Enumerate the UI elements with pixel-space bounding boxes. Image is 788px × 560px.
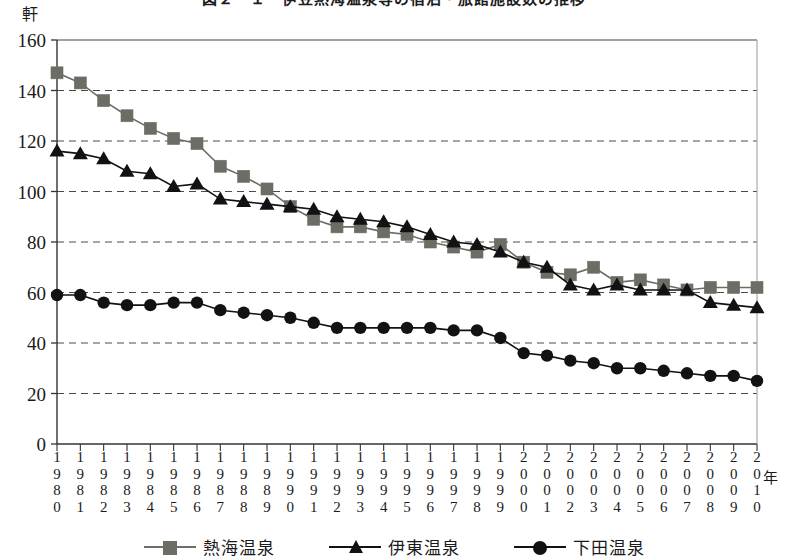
x-axis-tick-digit: 9 <box>93 466 115 483</box>
x-axis-tick-digit: 0 <box>536 466 558 483</box>
x-axis-tick-digit: 0 <box>676 482 698 499</box>
x-axis-tick-digit: 1 <box>746 482 768 499</box>
x-axis-tick-label: 2003 <box>583 449 605 515</box>
x-axis-tick-digit: 2 <box>513 449 535 466</box>
square-marker-icon <box>98 95 110 107</box>
x-axis-tick-digit: 2 <box>699 449 721 466</box>
x-axis-tick-digit: 1 <box>233 449 255 466</box>
x-axis-tick-digit: 8 <box>163 482 185 499</box>
square-marker-icon <box>238 170 250 182</box>
y-axis-tick-label: 20 <box>27 384 46 405</box>
x-axis-tick-digit: 0 <box>653 466 675 483</box>
legend-key <box>514 538 566 556</box>
x-axis-tick-digit: 6 <box>186 499 208 516</box>
x-axis-tick-label: 2006 <box>653 449 675 515</box>
x-axis-tick-digit: 4 <box>139 499 161 516</box>
x-axis-tick-label: 1991 <box>303 449 325 515</box>
circle-marker-icon <box>121 299 133 311</box>
x-axis-tick-digit: 9 <box>303 466 325 483</box>
circle-marker-icon <box>377 322 389 334</box>
x-axis-tick-digit: 9 <box>443 466 465 483</box>
x-axis-tick-digit: 1 <box>186 449 208 466</box>
legend-item-3[interactable]: 下田温泉 <box>514 534 645 559</box>
x-axis-tick-label: 1992 <box>326 449 348 515</box>
x-axis-tick-digit: 9 <box>46 466 68 483</box>
x-axis-tick-digit: 0 <box>653 482 675 499</box>
x-axis-tick-digit: 8 <box>139 482 161 499</box>
square-marker-icon <box>51 67 63 79</box>
x-axis-tick-digit: 8 <box>256 482 278 499</box>
x-axis-tick-digit: 9 <box>233 466 255 483</box>
triangle-marker-icon <box>190 176 205 189</box>
circle-marker-icon <box>494 332 506 344</box>
x-axis-tick-label: 2007 <box>676 449 698 515</box>
x-axis-tick-digit: 0 <box>606 466 628 483</box>
x-axis-tick-digit: 0 <box>723 482 745 499</box>
circle-marker-icon <box>74 289 86 301</box>
y-axis-tick-label: 160 <box>18 30 47 51</box>
x-axis-tick-digit: 1 <box>303 499 325 516</box>
legend-item-1[interactable]: 熱海温泉 <box>144 534 275 559</box>
square-marker-icon <box>728 281 740 293</box>
circle-marker-icon <box>284 312 296 324</box>
square-marker-icon <box>163 541 177 555</box>
y-axis-tick-label: 80 <box>27 232 46 253</box>
x-axis-tick-digit: 1 <box>419 449 441 466</box>
legend-item-2[interactable]: 伊東温泉 <box>329 534 460 559</box>
x-axis-tick-digit: 3 <box>116 499 138 516</box>
x-axis-tick-digit: 8 <box>209 482 231 499</box>
y-axis-tick-label: 60 <box>27 283 46 304</box>
circle-marker-icon <box>634 362 646 374</box>
circle-marker-icon <box>97 296 109 308</box>
x-axis-tick-digit: 2 <box>583 449 605 466</box>
legend-label: 熱海温泉 <box>203 534 275 559</box>
x-axis-tick-digit: 1 <box>303 449 325 466</box>
x-axis-tick-digit: 8 <box>233 482 255 499</box>
x-axis-tick-label: 1981 <box>69 449 91 515</box>
square-marker-icon <box>144 122 156 134</box>
x-axis-tick-digit: 9 <box>373 482 395 499</box>
circle-marker-icon <box>401 322 413 334</box>
circle-marker-icon <box>307 317 319 329</box>
square-marker-icon <box>168 132 180 144</box>
x-axis-tick-digit: 8 <box>69 482 91 499</box>
x-axis-tick-digit: 0 <box>699 466 721 483</box>
x-axis-tick-digit: 9 <box>256 466 278 483</box>
x-axis-tick-label: 1996 <box>419 449 441 515</box>
x-axis-tick-digit: 9 <box>279 482 301 499</box>
x-axis-tick-label: 1984 <box>139 449 161 515</box>
circle-marker-icon <box>564 354 576 366</box>
x-axis-tick-digit: 8 <box>116 482 138 499</box>
x-axis-tick-label: 1994 <box>373 449 395 515</box>
x-axis-tick-digit: 1 <box>279 449 301 466</box>
x-axis-tick-digit: 9 <box>396 466 418 483</box>
x-axis-tick-digit: 1 <box>396 449 418 466</box>
x-axis-tick-digit: 9 <box>303 482 325 499</box>
x-axis-tick-digit: 0 <box>629 466 651 483</box>
x-axis-tick-label: 1986 <box>186 449 208 515</box>
x-axis-tick-digit: 3 <box>583 499 605 516</box>
x-axis-tick-digit: 2 <box>559 449 581 466</box>
circle-marker-icon <box>261 309 273 321</box>
x-axis-tick-digit: 9 <box>349 482 371 499</box>
square-marker-icon <box>121 110 133 122</box>
x-axis-tick-digit: 0 <box>513 482 535 499</box>
x-axis-tick-label: 2008 <box>699 449 721 515</box>
circle-marker-icon <box>471 324 483 336</box>
x-axis-tick-digit: 8 <box>186 482 208 499</box>
x-axis-tick-digit: 6 <box>653 499 675 516</box>
circle-marker-icon <box>167 296 179 308</box>
circle-marker-icon <box>517 347 529 359</box>
x-axis-tick-digit: 9 <box>209 466 231 483</box>
x-axis-tick-digit: 9 <box>489 499 511 516</box>
circle-marker-icon <box>657 365 669 377</box>
x-axis-tick-digit: 8 <box>233 499 255 516</box>
x-axis-tick-digit: 1 <box>466 449 488 466</box>
series-2 <box>50 144 765 314</box>
legend-key <box>144 538 196 556</box>
x-axis-tick-digit: 0 <box>606 482 628 499</box>
x-axis-tick-digit: 0 <box>559 466 581 483</box>
x-axis-tick-digit: 9 <box>256 499 278 516</box>
x-axis-tick-label: 2005 <box>629 449 651 515</box>
x-axis-tick-digit: 2 <box>676 449 698 466</box>
